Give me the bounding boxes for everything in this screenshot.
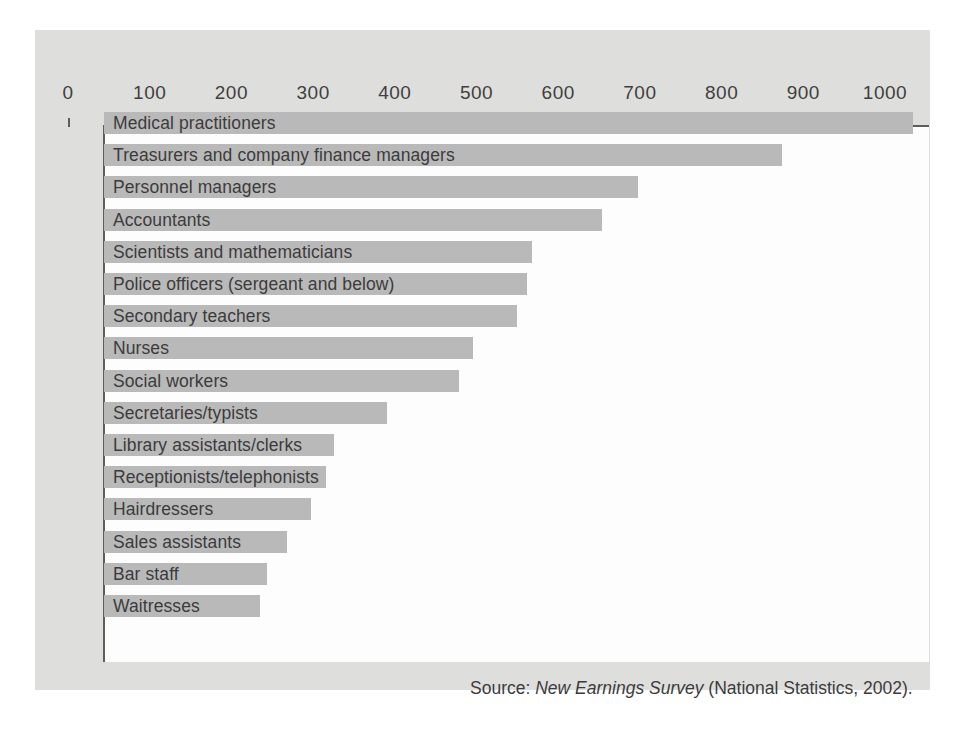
- x-axis-tick-label: 700: [623, 82, 656, 104]
- bar-label: Bar staff: [113, 563, 179, 585]
- bar-label: Personnel managers: [113, 176, 276, 198]
- x-axis-tick: [68, 118, 70, 127]
- bar-label: Treasurers and company finance managers: [113, 144, 455, 166]
- bar-label: Hairdressers: [113, 498, 213, 520]
- figure-panel: 01002003004005006007008009001000 Medical…: [35, 30, 930, 690]
- x-axis-tick-label: 600: [542, 82, 575, 104]
- bar-label: Sales assistants: [113, 531, 241, 553]
- source-prefix: Source:: [470, 678, 535, 698]
- bar-label: Police officers (sergeant and below): [113, 273, 394, 295]
- x-axis-tick-label: 400: [378, 82, 411, 104]
- bar-label: Scientists and mathematicians: [113, 241, 352, 263]
- bar-label: Receptionists/telephonists: [113, 466, 319, 488]
- bar-label: Waitresses: [113, 595, 200, 617]
- x-axis-tick-label: 100: [133, 82, 166, 104]
- bar-label: Accountants: [113, 209, 210, 231]
- bar-label: Medical practitioners: [113, 112, 276, 134]
- x-axis-tick-label: 900: [787, 82, 820, 104]
- bar-label: Library assistants/clerks: [113, 434, 302, 456]
- bar-label: Social workers: [113, 370, 228, 392]
- x-axis-tick-label: 300: [296, 82, 329, 104]
- source-note: Source: New Earnings Survey (National St…: [470, 678, 913, 699]
- bar-label: Nurses: [113, 337, 169, 359]
- bar-label: Secretaries/typists: [113, 402, 258, 424]
- source-suffix: (National Statistics, 2002).: [703, 678, 912, 698]
- x-axis-tick-label: 500: [460, 82, 493, 104]
- x-axis-tick-label: 1000: [863, 82, 907, 104]
- source-title: New Earnings Survey: [535, 678, 703, 698]
- x-axis-tick-label: 800: [705, 82, 738, 104]
- x-axis-tick-label: 200: [215, 82, 248, 104]
- x-axis-tick-label: 0: [62, 82, 73, 104]
- bar-label: Secondary teachers: [113, 305, 270, 327]
